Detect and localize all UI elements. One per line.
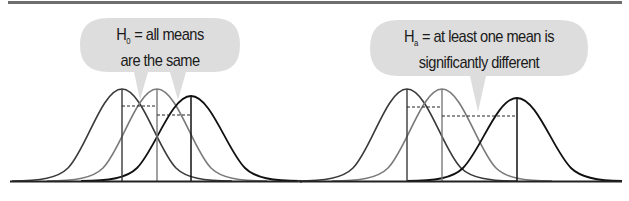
anova-hypothesis-figure: H0 = all means are the same Ha = at leas…: [0, 0, 629, 201]
hypothesis-symbol: H: [404, 27, 414, 46]
alternative-hypothesis-line-1: Ha = at least one mean is: [385, 27, 572, 53]
hypothesis-statement: = at least one mean is: [418, 27, 554, 46]
hypothesis-statement: = all means: [131, 25, 204, 44]
null-hypothesis-label: H0 = all means are the same: [91, 25, 229, 70]
distribution-curve-3: [407, 98, 622, 181]
hypothesis-symbol: H: [116, 25, 126, 44]
alternative-hypothesis-line-2: significantly different: [385, 53, 572, 72]
alternative-hypothesis-label: Ha = at least one mean is significantly …: [385, 27, 572, 72]
null-hypothesis-line-2: are the same: [91, 51, 229, 70]
null-hypothesis-line-1: H0 = all means: [91, 25, 229, 51]
